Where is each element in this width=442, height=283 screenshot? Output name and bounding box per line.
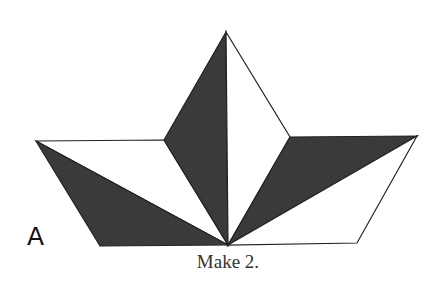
block-label: A [27, 224, 44, 249]
caption: Make 2. [0, 252, 442, 271]
quilt-block-diagram [0, 0, 442, 283]
